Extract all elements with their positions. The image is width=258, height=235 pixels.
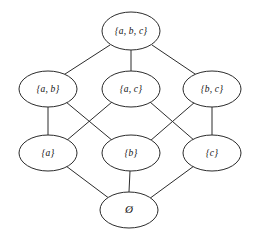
lattice-edge-a-empty [66,166,110,199]
lattice-edge-abc-ab [62,45,110,76]
node-label-c: {c} [206,148,218,158]
node-label-ab: {a, b} [36,84,59,94]
lattice-node-abc[interactable]: {a, b, c} [102,12,160,50]
lattice-node-empty[interactable]: Ø [100,192,158,228]
node-label-ac: {a, c} [120,84,143,94]
lattice-edge-c-empty [149,166,194,199]
nodes-group: {a, b, c}{a, b}{a, c}{b, c}{a}{b}{c}Ø [19,12,241,228]
hasse-diagram-canvas: {a, b, c}{a, b}{a, c}{b, c}{a}{b}{c}Ø [0,0,258,235]
lattice-node-c[interactable]: {c} [183,135,241,171]
lattice-node-ac[interactable]: {a, c} [102,71,160,107]
lattice-edge-b-empty [129,171,130,192]
node-label-bc: {b, c} [201,84,224,94]
edges-group [48,45,212,199]
lattice-edge-abc-bc [152,45,198,76]
node-label-abc: {a, b, c} [115,26,148,36]
lattice-node-b[interactable]: {b} [102,135,160,171]
power-set-lattice-diagram: {a, b, c}{a, b}{a, c}{b, c}{a}{b}{c}Ø [0,0,258,235]
lattice-node-bc[interactable]: {b, c} [183,71,241,107]
lattice-node-a[interactable]: {a} [19,135,77,171]
node-label-empty: Ø [124,203,134,215]
lattice-node-ab[interactable]: {a, b} [19,71,77,107]
node-label-b: {b} [125,148,138,158]
node-label-a: {a} [42,148,55,158]
